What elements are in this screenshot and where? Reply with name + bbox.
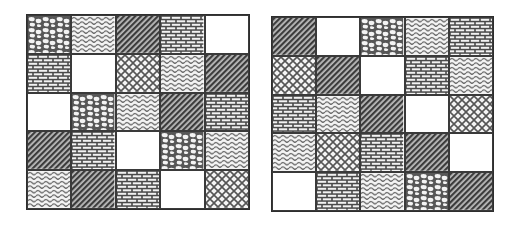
crosshatch-pattern-icon	[206, 171, 248, 208]
diagonal-pattern-icon	[450, 173, 492, 210]
tile-brick	[205, 93, 249, 132]
tile-cobble	[405, 172, 449, 211]
tile-cobble	[27, 15, 71, 54]
tile-blank	[449, 133, 493, 172]
tile-wave	[449, 56, 493, 95]
diagonal-pattern-icon	[361, 96, 403, 133]
tile-blank	[116, 131, 160, 170]
tile-cobble	[360, 17, 404, 56]
wave-pattern-icon	[450, 57, 492, 94]
tile-diagonal	[272, 17, 316, 56]
wave-pattern-icon	[317, 96, 359, 133]
tile-blank	[160, 170, 204, 209]
tile-wave	[71, 15, 115, 54]
brick-pattern-icon	[72, 132, 114, 169]
tile-brick	[27, 54, 71, 93]
tile-wave	[360, 172, 404, 211]
tile-wave	[405, 17, 449, 56]
wave-pattern-icon	[117, 94, 159, 131]
diagonal-pattern-icon	[117, 16, 159, 53]
tile-brick	[272, 95, 316, 134]
crosshatch-pattern-icon	[450, 96, 492, 133]
tile-brick	[405, 56, 449, 95]
tile-cobble	[71, 93, 115, 132]
tile-blank	[360, 56, 404, 95]
tile-blank	[272, 172, 316, 211]
brick-pattern-icon	[406, 57, 448, 94]
tile-wave	[272, 133, 316, 172]
tile-blank	[71, 54, 115, 93]
tile-brick	[360, 133, 404, 172]
tile-blank	[405, 95, 449, 134]
cobble-pattern-icon	[28, 16, 70, 53]
diagonal-pattern-icon	[72, 171, 114, 208]
crosshatch-pattern-icon	[117, 55, 159, 92]
tile-blank	[205, 15, 249, 54]
wave-pattern-icon	[273, 134, 315, 171]
left-tile-grid	[26, 14, 250, 210]
wave-pattern-icon	[72, 16, 114, 53]
brick-pattern-icon	[206, 94, 248, 131]
diagonal-pattern-icon	[28, 132, 70, 169]
cobble-pattern-icon	[72, 94, 114, 131]
brick-pattern-icon	[117, 171, 159, 208]
tile-brick	[316, 172, 360, 211]
brick-pattern-icon	[28, 55, 70, 92]
diagonal-pattern-icon	[317, 57, 359, 94]
wave-pattern-icon	[161, 55, 203, 92]
tile-crosshatch	[116, 54, 160, 93]
cobble-pattern-icon	[161, 132, 203, 169]
wave-pattern-icon	[406, 18, 448, 55]
tile-diagonal	[205, 54, 249, 93]
tile-blank	[27, 93, 71, 132]
tile-cobble	[160, 131, 204, 170]
tile-crosshatch	[449, 95, 493, 134]
tile-wave	[27, 170, 71, 209]
tile-brick	[71, 131, 115, 170]
brick-pattern-icon	[273, 96, 315, 133]
tile-diagonal	[360, 95, 404, 134]
brick-pattern-icon	[361, 134, 403, 171]
tile-brick	[116, 170, 160, 209]
crosshatch-pattern-icon	[317, 134, 359, 171]
tile-brick	[160, 15, 204, 54]
wave-pattern-icon	[206, 132, 248, 169]
tile-crosshatch	[316, 133, 360, 172]
tile-diagonal	[316, 56, 360, 95]
tile-diagonal	[160, 93, 204, 132]
tile-diagonal	[405, 133, 449, 172]
diagonal-pattern-icon	[161, 94, 203, 131]
tile-diagonal	[27, 131, 71, 170]
tile-crosshatch	[272, 56, 316, 95]
tile-wave	[116, 93, 160, 132]
wave-pattern-icon	[361, 173, 403, 210]
cobble-pattern-icon	[406, 173, 448, 210]
tile-diagonal	[449, 172, 493, 211]
brick-pattern-icon	[450, 18, 492, 55]
tile-diagonal	[71, 170, 115, 209]
tile-crosshatch	[205, 170, 249, 209]
brick-pattern-icon	[317, 173, 359, 210]
diagonal-pattern-icon	[273, 18, 315, 55]
crosshatch-pattern-icon	[273, 57, 315, 94]
tile-wave	[160, 54, 204, 93]
tile-wave	[316, 95, 360, 134]
tile-wave	[205, 131, 249, 170]
diagonal-pattern-icon	[406, 134, 448, 171]
wave-pattern-icon	[28, 171, 70, 208]
diagonal-pattern-icon	[206, 55, 248, 92]
tile-brick	[449, 17, 493, 56]
right-tile-grid	[271, 16, 494, 212]
tile-diagonal	[116, 15, 160, 54]
brick-pattern-icon	[161, 16, 203, 53]
cobble-pattern-icon	[361, 18, 403, 55]
tile-blank	[316, 17, 360, 56]
